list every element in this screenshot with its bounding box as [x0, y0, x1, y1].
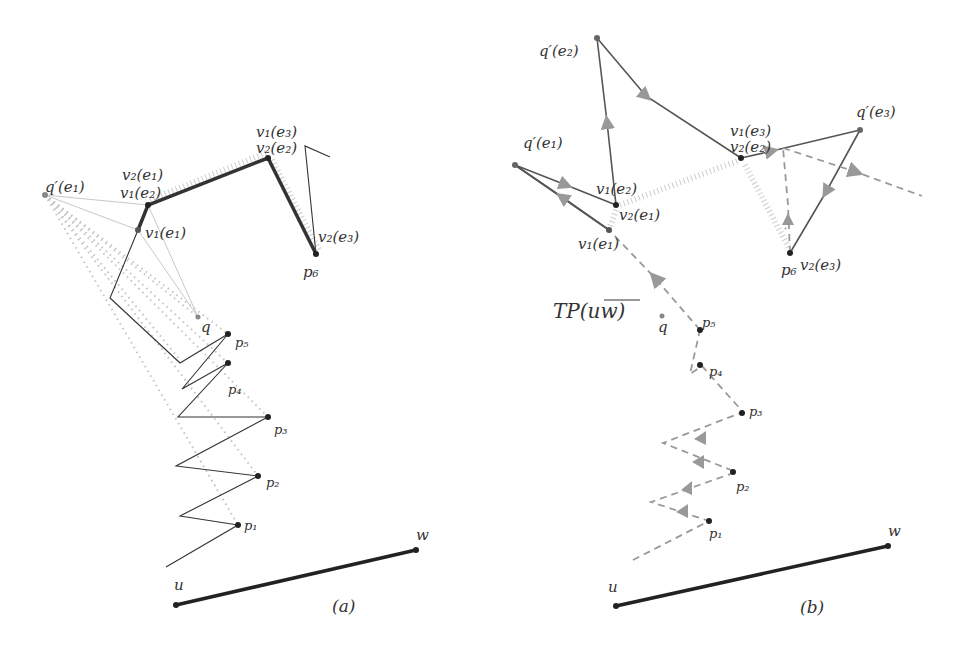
label-q-b: q — [658, 318, 668, 336]
tour-path — [515, 38, 860, 253]
segment-uw — [176, 550, 416, 605]
label-p6: p₆ — [303, 263, 319, 281]
label-v2-e2: v₂(e₂) — [256, 139, 297, 157]
label-v1-e1-b: v₁(e₁) — [578, 235, 619, 253]
visibility-rays — [45, 195, 268, 525]
label-v2-e1: v₂(e₁) — [122, 166, 163, 184]
segment-uw-b — [616, 546, 888, 606]
label-v2-e1-b: v₂(e₁) — [619, 206, 660, 224]
label-v1-e1: v₁(e₁) — [145, 224, 186, 242]
hatching-b — [609, 160, 790, 250]
label-w-b: w — [888, 522, 901, 540]
panel-a: q′(e₁) v₂(e₁) v₁(e₂) v₁(e₁) v₁(e₃) v₂(e₂… — [42, 123, 429, 616]
label-v1-e2: v₁(e₂) — [120, 184, 161, 202]
label-q-prime-e3: q′(e₃) — [856, 103, 896, 121]
label-p3: p₃ — [274, 422, 288, 437]
caption-a: (a) — [332, 596, 355, 616]
label-p4: p₄ — [228, 382, 242, 397]
label-p5-b: p₅ — [702, 315, 716, 330]
zigzag-path — [110, 230, 268, 567]
figure-canvas: q′(e₁) v₂(e₁) v₁(e₂) v₁(e₁) v₁(e₃) v₂(e₂… — [0, 0, 959, 659]
label-p2-b: p₂ — [736, 479, 750, 494]
label-p1: p₁ — [244, 518, 258, 533]
caption-b: (b) — [800, 597, 824, 617]
label-u-b: u — [608, 578, 618, 596]
label-v2-e3: v₂(e₃) — [318, 228, 359, 246]
label-p1-b: p₁ — [709, 526, 723, 541]
label-p4-b: p₄ — [709, 364, 723, 379]
label-p2: p₂ — [266, 475, 280, 490]
label-v2-e3-b: v₂(e₃) — [800, 256, 841, 274]
label-w: w — [416, 526, 429, 544]
label-p3-b: p₃ — [749, 404, 763, 419]
label-p6-b: p₆ — [781, 261, 797, 279]
label-u: u — [174, 576, 184, 594]
label-q-prime-e2: q′(e₂) — [539, 42, 579, 60]
label-p5: p₅ — [235, 335, 249, 350]
label-tp-uw: TP(uw) — [553, 299, 625, 323]
label-q-prime-e1: q′(e₁) — [45, 178, 85, 196]
label-v2-e2-b: v₂(e₂) — [730, 138, 771, 156]
panel-b: q′(e₂) q′(e₁) q′(e₃) v₁(e₃) v₂(e₂) v₁(e₂… — [512, 35, 922, 617]
label-v1-e2-b: v₁(e₂) — [596, 180, 637, 198]
label-q-prime-e1-b: q′(e₁) — [523, 134, 563, 152]
label-q: q — [201, 318, 211, 336]
